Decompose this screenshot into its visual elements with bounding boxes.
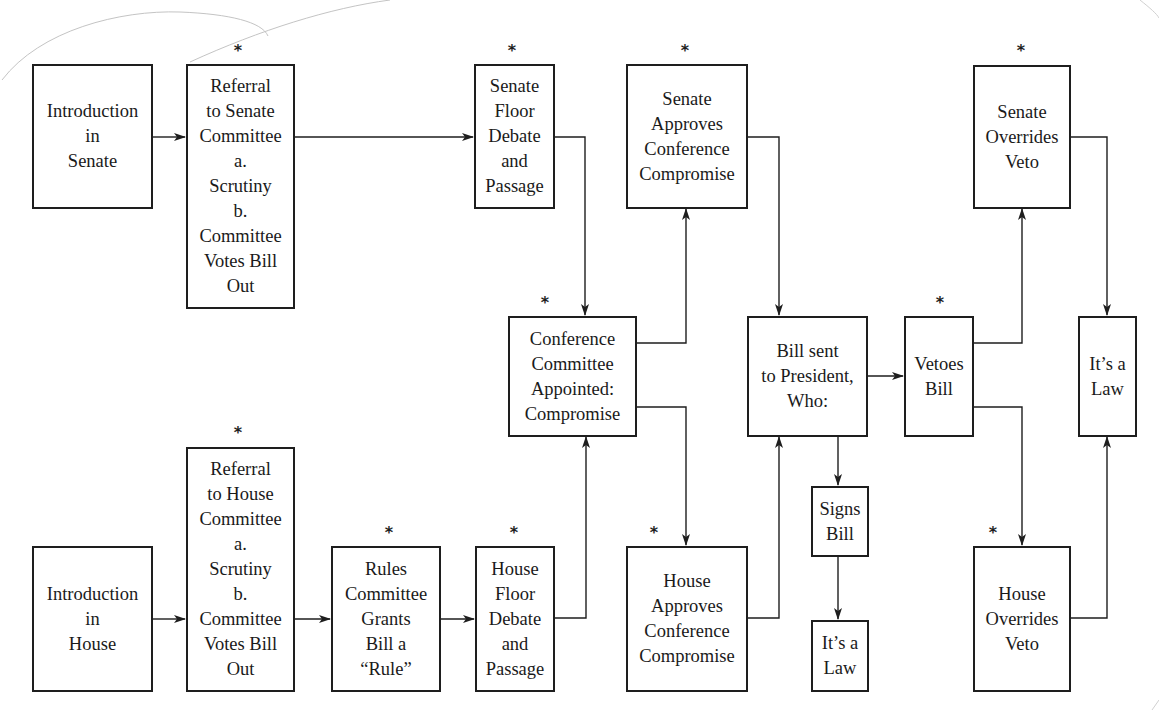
node-text: Bill a <box>366 632 407 657</box>
node-text: in <box>85 607 99 632</box>
node-text: Signs <box>819 497 860 522</box>
node-text: Who: <box>787 389 828 414</box>
node-text: Out <box>227 274 255 299</box>
required-marker-icon: * <box>936 293 944 312</box>
node-text: b. <box>234 199 248 224</box>
node-signs-bill: Signs Bill <box>811 486 869 557</box>
node-text: Compromise <box>639 644 735 669</box>
node-text: Referral <box>210 457 271 482</box>
node-text: Approves <box>651 594 723 619</box>
node-conference-committee: Conference Committee Appointed: Compromi… <box>508 316 637 437</box>
node-text: Law <box>1091 377 1124 402</box>
node-text: to President, <box>761 364 854 389</box>
node-text: House <box>491 557 538 582</box>
node-text: Bill <box>826 522 854 547</box>
node-text: Senate <box>490 74 539 99</box>
node-text: Scrutiny <box>209 557 272 582</box>
node-vetoes-bill: Vetoes Bill <box>904 316 974 437</box>
node-text: Overrides <box>986 125 1059 150</box>
node-text: Passage <box>486 657 545 682</box>
node-senate-approves-compromise: Senate Approves Conference Compromise <box>626 64 748 209</box>
node-text: to Senate <box>206 99 274 124</box>
node-text: Bill sent <box>776 339 838 364</box>
node-house-overrides-veto: House Overrides Veto <box>973 546 1071 692</box>
node-text: Grants <box>361 607 410 632</box>
node-introduction-in-senate: Introduction in Senate <box>32 64 153 209</box>
node-text: a. <box>234 149 247 174</box>
node-text: Debate <box>489 607 541 632</box>
node-text: Senate <box>68 149 117 174</box>
node-text: Conference <box>644 137 729 162</box>
required-marker-icon: * <box>650 523 658 542</box>
required-marker-icon: * <box>1017 41 1025 60</box>
node-text: Floor <box>494 99 534 124</box>
node-text: Compromise <box>525 402 621 427</box>
node-text: Approves <box>651 112 723 137</box>
node-text: Senate <box>997 100 1046 125</box>
node-text: Introduction <box>47 99 138 124</box>
node-rules-committee: Rules Committee Grants Bill a “Rule” <box>331 546 441 692</box>
node-text: Veto <box>1005 632 1039 657</box>
required-marker-icon: * <box>681 41 689 60</box>
node-text: Passage <box>485 174 544 199</box>
node-text: Committee <box>199 607 281 632</box>
node-text: House <box>998 582 1045 607</box>
node-text: Referral <box>210 74 271 99</box>
node-text: in <box>85 124 99 149</box>
node-text: Committee <box>199 507 281 532</box>
node-text: to House <box>207 482 273 507</box>
node-house-floor-debate: House Floor Debate and Passage <box>475 546 555 692</box>
node-text: Conference <box>644 619 729 644</box>
required-marker-icon: * <box>508 41 516 60</box>
node-text: Floor <box>495 582 535 607</box>
node-text: Out <box>227 657 255 682</box>
node-text: Committee <box>199 124 281 149</box>
node-text: Law <box>824 656 857 681</box>
node-its-a-law-signed: It’s a Law <box>811 620 869 692</box>
node-house-approves-compromise: House Approves Conference Compromise <box>626 546 748 692</box>
node-text: Scrutiny <box>209 174 272 199</box>
node-text: Committee <box>345 582 427 607</box>
node-text: Committee <box>199 224 281 249</box>
node-text: Votes Bill <box>204 632 277 657</box>
node-referral-to-house-committee: Referral to House Committee a. Scrutiny … <box>186 447 295 692</box>
node-text: Appointed: <box>531 377 614 402</box>
node-text: Rules <box>365 557 407 582</box>
node-text: a. <box>234 532 247 557</box>
node-bill-sent-to-president: Bill sent to President, Who: <box>747 316 868 437</box>
node-senate-floor-debate: Senate Floor Debate and Passage <box>474 64 555 209</box>
node-text: Vetoes <box>914 352 963 377</box>
node-text: and <box>502 632 529 657</box>
required-marker-icon: * <box>234 41 242 60</box>
node-text: House <box>663 569 710 594</box>
node-its-a-law-override: It’s a Law <box>1078 316 1137 437</box>
node-text: and <box>501 149 528 174</box>
required-marker-icon: * <box>385 523 393 542</box>
node-text: House <box>69 632 116 657</box>
node-text: It’s a <box>1089 352 1125 377</box>
node-text: Debate <box>488 124 540 149</box>
node-text: Votes Bill <box>204 249 277 274</box>
node-senate-overrides-veto: Senate Overrides Veto <box>973 65 1071 209</box>
node-text: Committee <box>531 352 613 377</box>
node-text: Conference <box>530 327 615 352</box>
node-introduction-in-house: Introduction in House <box>32 546 153 692</box>
required-marker-icon: * <box>989 523 997 542</box>
required-marker-icon: * <box>510 523 518 542</box>
node-text: Introduction <box>47 582 138 607</box>
required-marker-icon: * <box>541 293 549 312</box>
node-text: It’s a <box>822 631 858 656</box>
node-text: “Rule” <box>360 657 411 682</box>
node-text: Senate <box>662 87 711 112</box>
node-text: Compromise <box>639 162 735 187</box>
bill-to-law-flowchart: * * * * * * * * * * * Introduction in Se… <box>0 0 1159 715</box>
node-text: Bill <box>925 377 953 402</box>
node-text: Overrides <box>986 607 1059 632</box>
node-text: b. <box>234 582 248 607</box>
required-marker-icon: * <box>234 423 242 442</box>
node-text: Veto <box>1005 150 1039 175</box>
node-referral-to-senate-committee: Referral to Senate Committee a. Scrutiny… <box>186 64 295 309</box>
